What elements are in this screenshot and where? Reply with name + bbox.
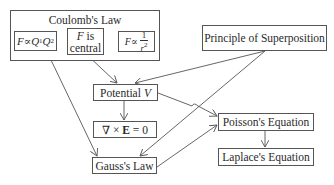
inverse-square-fraction: 1 r2 [140,31,149,53]
force-central-box: F is central [67,28,104,55]
edge-potential-to-poisson [158,93,217,116]
superposition-box: Principle of Superposition [202,25,327,51]
curl-free-box: ∇ × E = 0 [93,121,157,138]
force-inverse-square-box: F∝ 1 r2 [118,31,155,52]
poisson-equation-box: Poisson's Equation [218,113,314,131]
edge-gauss-to-poisson [157,125,217,167]
coulombs-law-title: Coulomb's Law [11,14,159,26]
edge-coulomb-to-gauss [51,60,97,156]
gauss-law-box: Gauss's Law [92,157,157,174]
laplace-equation-box: Laplace's Equation [218,148,314,166]
force-proportional-charges-box: F∝Q1Q2 [14,31,57,51]
potential-box: Potential V [93,84,158,101]
